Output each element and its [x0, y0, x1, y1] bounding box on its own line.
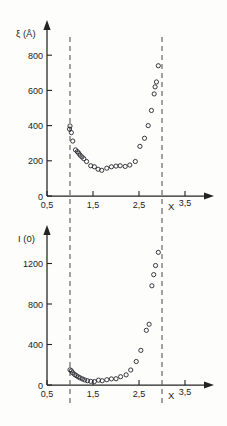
x-tick-label-bottom-0p5: 0,5 [41, 389, 54, 399]
data-point [156, 250, 160, 254]
data-point [153, 85, 157, 89]
figure-two-panel-scatter: 0 200 400 600 800 0,5 1,5 2,5 3,5 ξ (Å) … [0, 0, 227, 426]
data-point [138, 144, 142, 148]
y-ticks-top [47, 55, 52, 196]
data-point [69, 131, 73, 135]
x-axis-label-bottom: X [168, 390, 175, 401]
x-axis-label-top: X [168, 201, 175, 212]
y-tick-label-top-400: 400 [28, 121, 43, 131]
data-point [152, 273, 156, 277]
data-point [84, 159, 88, 163]
data-point [133, 159, 137, 163]
data-point [129, 368, 133, 372]
x-tick-label-top-1p5: 1,5 [87, 200, 100, 210]
y-tick-label-top-600: 600 [28, 86, 43, 96]
data-point [150, 284, 154, 288]
data-point [124, 373, 128, 377]
data-point [118, 164, 122, 168]
data-point [109, 165, 113, 169]
data-point [105, 166, 109, 170]
data-point [114, 164, 118, 168]
y-tick-label-top-200: 200 [28, 156, 43, 166]
x-tick-label-top-2p5: 2,5 [133, 200, 146, 210]
data-point-group-bottom [68, 250, 161, 383]
data-point [119, 375, 123, 379]
x-tick-label-top-3p5: 3,5 [179, 198, 192, 208]
data-point [109, 377, 113, 381]
data-point [134, 359, 138, 363]
data-point [156, 64, 160, 68]
data-point [123, 164, 127, 168]
data-point [71, 139, 75, 143]
data-point [152, 92, 156, 96]
data-point [114, 377, 118, 381]
chart-panel-top: 0 200 400 600 800 0,5 1,5 2,5 3,5 ξ (Å) … [0, 0, 227, 213]
x-tick-label-bottom-3p5: 3,5 [179, 387, 192, 397]
chart-panel-bottom: 0 400 800 1200 0,5 1,5 2,5 3,5 I (0) X [0, 213, 227, 426]
x-tick-label-bottom-2p5: 2,5 [133, 389, 146, 399]
y-ticks-bottom [47, 264, 52, 386]
y-tick-label-bottom-1200: 1200 [23, 259, 43, 269]
x-axis-arrowhead-top [204, 192, 214, 199]
y-tick-label-top-800: 800 [28, 51, 43, 61]
x-tick-label-top-0p5: 0,5 [41, 200, 54, 210]
data-point [139, 348, 143, 352]
data-point [142, 136, 146, 140]
y-tick-label-bottom-800: 800 [28, 300, 43, 310]
data-point [153, 263, 157, 267]
y-axis-arrowhead-top [43, 20, 50, 30]
data-point [144, 328, 148, 332]
x-axis-arrowhead-bottom [204, 381, 214, 388]
data-point [105, 378, 109, 382]
data-point [128, 163, 132, 167]
y-axis-label-top: ξ (Å) [16, 28, 36, 39]
chart-svg-top: 0 200 400 600 800 0,5 1,5 2,5 3,5 ξ (Å) … [0, 0, 227, 213]
x-tick-label-bottom-1p5: 1,5 [87, 389, 100, 399]
data-point-group-top [67, 64, 160, 173]
y-tick-label-bottom-400: 400 [28, 340, 43, 350]
y-axis-label-bottom: I (0) [18, 233, 35, 244]
data-point [149, 108, 153, 112]
data-point [146, 124, 150, 128]
data-point [154, 80, 158, 84]
y-axis-arrowhead-bottom [43, 225, 50, 235]
x-ticks-top [47, 191, 185, 196]
chart-svg-bottom: 0 400 800 1200 0,5 1,5 2,5 3,5 I (0) X [0, 213, 227, 426]
data-point [147, 322, 151, 326]
